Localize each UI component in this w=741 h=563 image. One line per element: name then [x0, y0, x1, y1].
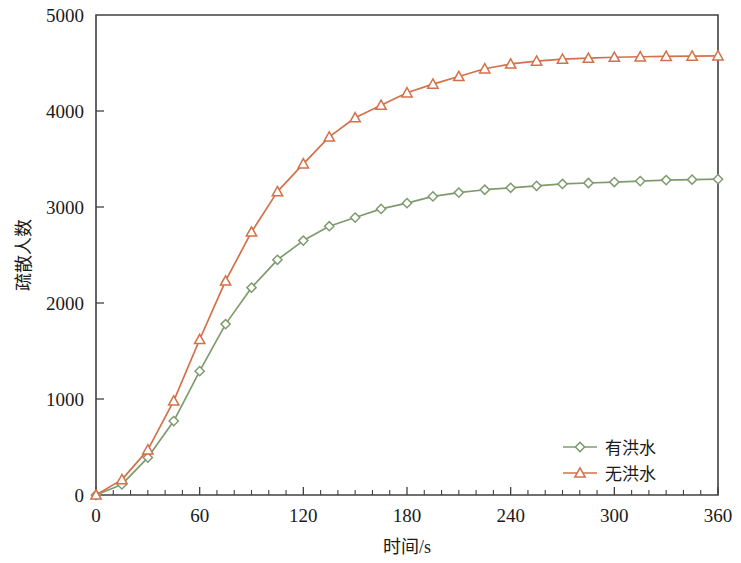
data-marker-triangle: [195, 334, 205, 343]
x-tick-label: 300: [600, 505, 629, 526]
y-axis-ticks: [96, 111, 104, 399]
legend-item[interactable]: 无洪水: [563, 465, 656, 484]
y-tick-label: 4000: [46, 101, 84, 122]
x-tick-label: 0: [91, 505, 101, 526]
data-marker-diamond: [351, 213, 360, 222]
y-tick-label: 1000: [46, 389, 84, 410]
x-axis-tick-labels: 060120180240300360: [91, 505, 732, 526]
data-marker-triangle: [169, 396, 179, 405]
x-tick-label: 360: [704, 505, 733, 526]
data-marker-diamond: [636, 176, 645, 185]
y-axis-tick-labels: 010002000300040005000: [46, 5, 84, 506]
data-marker-triangle: [376, 100, 386, 109]
data-marker-diamond: [687, 175, 696, 184]
y-tick-label: 2000: [46, 293, 84, 314]
data-marker-triangle: [350, 113, 360, 122]
data-marker-diamond: [402, 199, 411, 208]
data-marker-diamond: [325, 222, 334, 231]
data-marker-diamond: [713, 175, 722, 184]
x-tick-label: 60: [190, 505, 209, 526]
y-tick-label: 0: [75, 485, 85, 506]
data-marker-diamond: [428, 192, 437, 201]
data-marker-triangle: [220, 276, 230, 285]
y-tick-label: 5000: [46, 5, 84, 26]
legend-item-label: 无洪水: [605, 465, 656, 484]
data-marker-diamond: [195, 367, 204, 376]
data-marker-diamond: [575, 442, 584, 451]
data-marker-diamond: [558, 179, 567, 188]
data-marker-triangle: [143, 445, 153, 454]
data-marker-diamond: [610, 177, 619, 186]
data-marker-diamond: [454, 188, 463, 197]
data-marker-triangle: [246, 227, 256, 236]
data-marker-diamond: [506, 183, 515, 192]
x-axis-ticks: [96, 487, 718, 495]
data-marker-triangle: [324, 132, 334, 141]
chart-figure: 060120180240300360 010002000300040005000…: [0, 0, 741, 563]
data-series-layer: [91, 51, 723, 500]
x-tick-label: 120: [289, 505, 318, 526]
x-axis-title: 时间/s: [383, 537, 431, 557]
y-tick-label: 3000: [46, 197, 84, 218]
data-marker-diamond: [584, 178, 593, 187]
legend-item-label: 有洪水: [605, 439, 656, 458]
line-chart: 060120180240300360 010002000300040005000…: [0, 0, 741, 563]
data-marker-diamond: [532, 181, 541, 190]
chart-legend: 有洪水无洪水: [563, 439, 656, 484]
x-tick-label: 180: [393, 505, 422, 526]
data-series: [91, 51, 723, 499]
data-marker-diamond: [662, 176, 671, 185]
data-marker-diamond: [376, 204, 385, 213]
x-tick-label: 240: [496, 505, 525, 526]
y-axis-title: 疏散人数: [14, 219, 34, 291]
legend-item[interactable]: 有洪水: [563, 439, 656, 458]
data-marker-diamond: [480, 185, 489, 194]
